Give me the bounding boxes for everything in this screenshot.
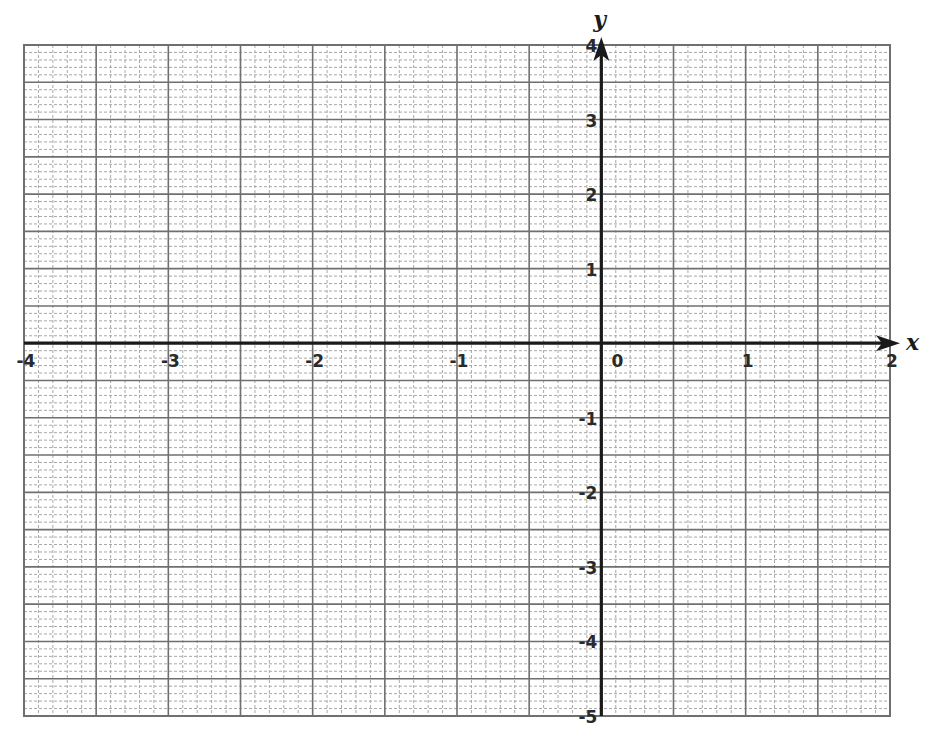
x-tick-labels: -4-3-2-1012 — [17, 351, 898, 371]
y-tick-label: -5 — [578, 707, 597, 727]
y-tick-label: -4 — [578, 632, 597, 652]
y-tick-label: 3 — [585, 111, 597, 131]
x-tick-label: -4 — [17, 351, 36, 371]
x-tick-label: -1 — [450, 351, 469, 371]
x-tick-label: -3 — [161, 351, 180, 371]
y-tick-label: 4 — [585, 36, 597, 56]
x-tick-label: 1 — [742, 351, 754, 371]
y-tick-label: -1 — [578, 409, 597, 429]
y-tick-label: 2 — [585, 185, 597, 205]
y-axis-label: y — [592, 6, 608, 32]
x-axis-label: x — [905, 329, 920, 355]
y-tick-labels: 4321-1-2-3-4-5 — [578, 36, 597, 727]
y-tick-label: -3 — [578, 558, 597, 578]
x-tick-label: -2 — [305, 351, 324, 371]
coordinate-grid: -4-3-2-1012 4321-1-2-3-4-5 x y — [0, 0, 937, 739]
axes — [24, 37, 900, 716]
y-tick-label: -2 — [578, 483, 597, 503]
y-tick-label: 1 — [585, 260, 597, 280]
x-tick-label: 2 — [886, 351, 898, 371]
x-tick-label: 0 — [611, 351, 623, 371]
